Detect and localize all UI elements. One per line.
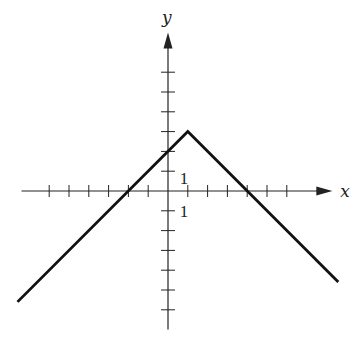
axes <box>21 33 332 330</box>
function-graph-line <box>18 132 339 302</box>
y-unit-label: 1 <box>180 169 189 188</box>
x-axis-arrowhead-icon <box>316 187 332 196</box>
x-unit-label: 1 <box>180 202 189 221</box>
y-axis-label: y <box>161 7 172 27</box>
x-axis-label: x <box>340 181 350 201</box>
coordinate-plane: x y 1 1 <box>0 0 360 362</box>
y-axis-arrowhead-icon <box>164 33 173 49</box>
